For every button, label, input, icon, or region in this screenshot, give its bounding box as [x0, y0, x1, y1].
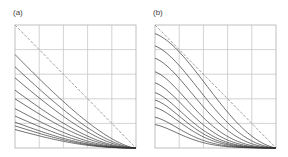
- figure-canvas: [0, 0, 288, 157]
- panel-a-plot: [15, 25, 136, 148]
- data-curve: [155, 107, 276, 148]
- panel-b-plot: [155, 25, 276, 148]
- data-curve: [155, 58, 276, 148]
- data-curve: [155, 83, 276, 148]
- reference-diagonal: [15, 25, 136, 148]
- data-curve: [15, 67, 136, 148]
- data-curve: [15, 78, 136, 148]
- reference-diagonal: [155, 25, 276, 148]
